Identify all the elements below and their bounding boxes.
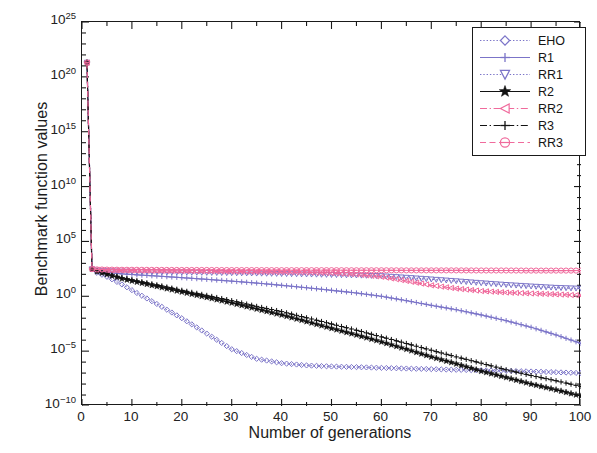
- legend-item-eho[interactable]: EHO: [477, 32, 580, 49]
- y-tick-label: 10−5: [22, 341, 76, 356]
- legend: EHOR1RR1R2RR2R3RR3: [472, 27, 586, 156]
- y-tick-label: 1025: [22, 12, 76, 27]
- x-tick-label: 100: [550, 409, 597, 424]
- legend-swatch-rr3: [477, 134, 533, 151]
- legend-label: R1: [533, 51, 554, 65]
- legend-item-r2[interactable]: R2: [477, 83, 580, 100]
- y-tick-label: 1010: [22, 177, 76, 192]
- y-tick-label: 105: [22, 231, 76, 246]
- y-tick-label: 1015: [22, 122, 76, 137]
- chart-figure: Benchmark function values 10251020101510…: [0, 0, 597, 453]
- legend-swatch-r2: [477, 83, 533, 100]
- y-axis-tick-labels: 102510201015101010510010−510−10: [0, 0, 76, 453]
- y-tick-label: 100: [22, 286, 76, 301]
- x-axis-title: Number of generations: [80, 424, 580, 442]
- y-tick-label: 1020: [22, 67, 76, 82]
- legend-label: R3: [533, 119, 554, 133]
- legend-label: RR3: [533, 136, 563, 150]
- legend-item-r3[interactable]: R3: [477, 117, 580, 134]
- legend-swatch-rr1: [477, 66, 533, 83]
- legend-swatch-eho: [477, 32, 533, 49]
- legend-item-rr3[interactable]: RR3: [477, 134, 580, 151]
- legend-item-rr1[interactable]: RR1: [477, 66, 580, 83]
- legend-label: R2: [533, 85, 554, 99]
- legend-item-r1[interactable]: R1: [477, 49, 580, 66]
- legend-item-rr2[interactable]: RR2: [477, 100, 580, 117]
- legend-swatch-rr2: [477, 100, 533, 117]
- legend-label: EHO: [533, 34, 565, 48]
- legend-label: RR1: [533, 68, 563, 82]
- legend-label: RR2: [533, 102, 563, 116]
- legend-swatch-r1: [477, 49, 533, 66]
- legend-swatch-r3: [477, 117, 533, 134]
